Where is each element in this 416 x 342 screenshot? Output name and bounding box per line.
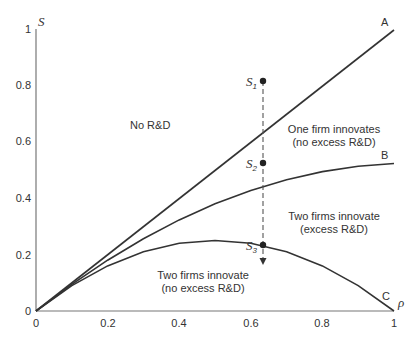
- x-tick-0: 0: [33, 317, 39, 329]
- x-tick-0.4: 0.4: [171, 317, 186, 329]
- point-s2-label: S2: [246, 156, 258, 173]
- region-two-excess-line1: Two firms innovate: [288, 210, 380, 222]
- curve-c-label: C: [382, 290, 390, 302]
- point-s2: [260, 160, 266, 166]
- x-tick-1: 1: [391, 317, 397, 329]
- x-axis-label: ρ: [397, 295, 404, 310]
- x-tick-0.2: 0.2: [100, 317, 115, 329]
- curve-a-label: A: [381, 16, 389, 28]
- point-s1: [260, 78, 266, 84]
- y-tick-0.8: 0.8: [16, 79, 31, 91]
- region-two-noexcess-line2: (no excess R&D): [161, 282, 244, 294]
- x-tick-0.8: 0.8: [314, 317, 329, 329]
- point-s1-label: S1: [246, 74, 257, 91]
- y-tick-0.6: 0.6: [16, 135, 31, 147]
- r-and-d-diagram: S ρ 1 0.8 0.6 0.4 0.2 0 0 0.2 0.4 0.6 0.…: [0, 0, 416, 342]
- y-tick-0.2: 0.2: [16, 249, 31, 261]
- point-s3-label: S3: [246, 238, 258, 255]
- region-no-rd: No R&D: [130, 119, 170, 131]
- y-tick-0.4: 0.4: [16, 192, 31, 204]
- region-two-excess-line2: (excess R&D): [300, 223, 368, 235]
- y-tick-0: 0: [25, 305, 31, 317]
- y-axis-label: S: [38, 14, 45, 29]
- x-tick-0.6: 0.6: [243, 317, 258, 329]
- arrow-down-icon: [260, 258, 267, 265]
- point-s3: [260, 242, 266, 248]
- region-two-noexcess-line1: Two firms innovate: [157, 269, 249, 281]
- curve-b-label: B: [381, 149, 388, 161]
- y-tick-1: 1: [25, 23, 31, 35]
- region-one-firm-line1: One firm innovates: [288, 123, 381, 135]
- region-one-firm-line2: (no excess R&D): [292, 136, 375, 148]
